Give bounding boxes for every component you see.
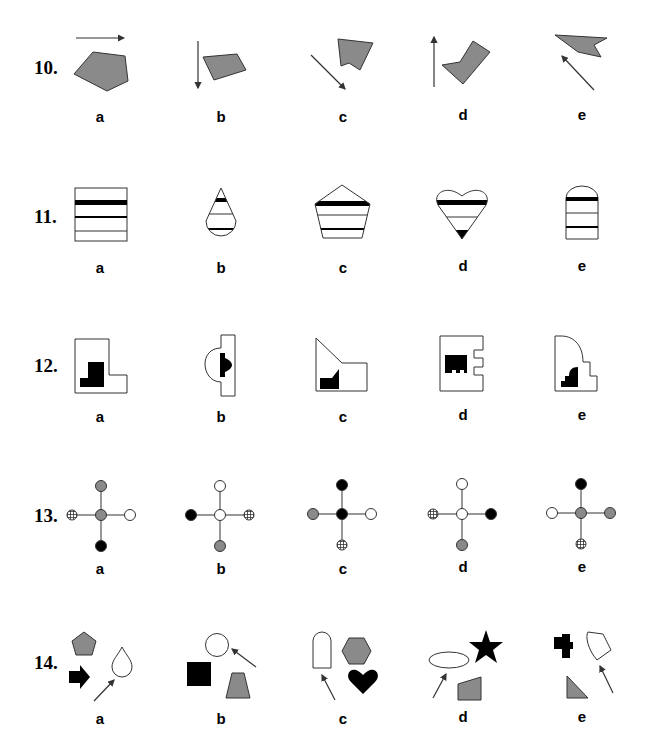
quadrilateral-shape	[203, 54, 246, 80]
pointer-arrow-icon	[433, 674, 446, 698]
hexagon-shape	[342, 638, 371, 664]
thick-stripe	[75, 200, 127, 205]
pointer-arrow-icon	[600, 666, 613, 693]
node-top-black	[337, 480, 348, 491]
pentagon-shape	[74, 52, 128, 91]
trapezoid-shape	[226, 673, 250, 698]
chevron-shape	[442, 41, 490, 84]
node-right-gray	[605, 508, 616, 519]
node-left-white	[547, 508, 558, 519]
node-bottom-black	[96, 541, 107, 552]
option-11e-figure[interactable]	[566, 186, 598, 239]
option-11b-figure[interactable]	[200, 188, 245, 236]
node-left-black	[186, 510, 197, 521]
node-top-gray	[96, 481, 107, 492]
option-11d-figure[interactable]	[430, 190, 495, 242]
option-12c-figure[interactable]	[316, 338, 367, 391]
option-14c-figure[interactable]	[313, 632, 378, 700]
pointer-arrow-icon	[322, 675, 335, 700]
cross-shape	[554, 634, 573, 658]
ellipse-shape	[429, 652, 469, 668]
node-right-black	[486, 509, 497, 520]
option-14d-figure[interactable]	[429, 630, 503, 700]
node-bottom-hatched	[576, 539, 586, 549]
square-shape	[187, 662, 211, 686]
node-center-gray	[576, 508, 587, 519]
quadrilateral-shape	[458, 677, 481, 700]
option-13e-figure[interactable]	[547, 479, 616, 550]
node-center-white	[215, 510, 226, 521]
node-right-white	[125, 510, 136, 521]
option-14e-figure[interactable]	[554, 632, 613, 698]
node-left-hatched	[428, 509, 438, 519]
option-10a-figure[interactable]	[74, 38, 128, 91]
option-13a-figure[interactable]	[67, 481, 136, 552]
node-top-white	[457, 479, 468, 490]
heart-shape	[348, 670, 378, 694]
pentagon-shape	[315, 185, 370, 238]
option-10c-figure[interactable]	[311, 39, 373, 89]
arrow-up-left-icon	[562, 56, 594, 90]
irregular-shape	[587, 632, 611, 660]
option-14b-figure[interactable]	[187, 634, 256, 699]
option-13b-figure[interactable]	[186, 481, 255, 552]
node-left-gray	[308, 509, 319, 520]
node-right-hatched	[244, 510, 254, 520]
node-center-white	[457, 509, 468, 520]
node-left-hatched	[67, 510, 77, 520]
flag-shape	[555, 35, 607, 57]
option-10d-figure[interactable]	[434, 37, 490, 87]
option-10e-figure[interactable]	[555, 35, 607, 90]
option-11c-figure[interactable]	[310, 185, 375, 238]
option-12b-figure[interactable]	[205, 335, 235, 396]
option-13c-figure[interactable]	[308, 480, 377, 551]
pentagon-shape	[72, 632, 96, 655]
node-top-white	[215, 481, 226, 492]
node-center-black	[337, 509, 348, 520]
option-14a-figure[interactable]	[69, 632, 132, 701]
circle-shape	[206, 634, 229, 657]
node-top-black	[576, 479, 587, 490]
node-bottom-gray	[457, 540, 468, 551]
option-12a-figure[interactable]	[75, 339, 127, 393]
star-shape	[469, 630, 503, 663]
triangle-shape	[567, 676, 588, 698]
figures-canvas	[0, 0, 647, 751]
option-11a-figure[interactable]	[75, 188, 127, 241]
node-center-gray	[96, 510, 107, 521]
option-13d-figure[interactable]	[428, 479, 497, 551]
node-right-white	[366, 509, 377, 520]
node-bottom-gray	[215, 541, 226, 552]
notched-pentagon-shape	[338, 39, 373, 70]
option-10b-figure[interactable]	[198, 41, 246, 88]
arrow-block-shape	[69, 665, 90, 689]
teardrop-shape	[112, 647, 132, 677]
pointer-arrow-icon	[94, 680, 114, 701]
option-12e-figure[interactable]	[555, 336, 597, 391]
arch-shape	[313, 632, 331, 668]
node-bottom-hatched	[337, 540, 347, 550]
option-12d-figure[interactable]	[440, 336, 483, 391]
pointer-arrow-icon	[232, 649, 256, 667]
